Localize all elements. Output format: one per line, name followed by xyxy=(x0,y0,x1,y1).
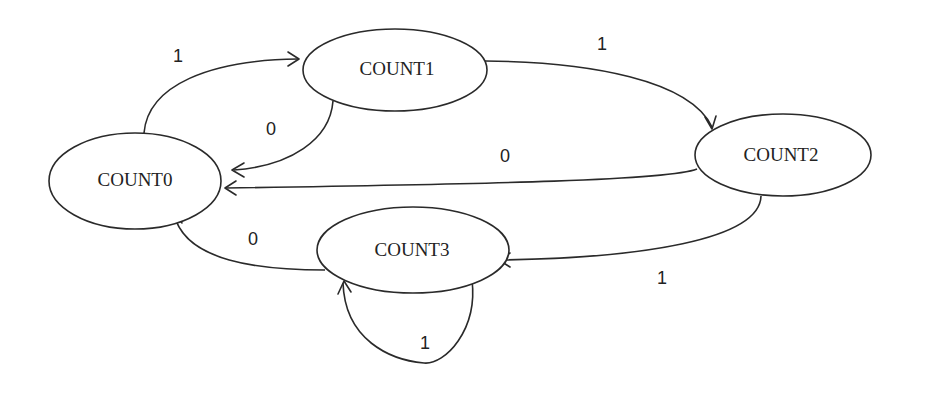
edge-count3-to-count0 xyxy=(168,213,325,270)
state-count1[interactable]: COUNT1 xyxy=(303,29,487,111)
edge-count2-to-count3 xyxy=(499,196,761,267)
edge-label: 1 xyxy=(173,46,183,66)
edge-label: 0 xyxy=(248,229,258,249)
state-count2[interactable]: COUNT2 xyxy=(695,114,871,196)
edge-label: 1 xyxy=(657,268,667,288)
edge-count1-to-count2 xyxy=(485,61,716,129)
state-label: COUNT0 xyxy=(98,169,173,190)
edge-label: 0 xyxy=(266,119,276,139)
edge-count1-to-count0 xyxy=(232,101,333,177)
state-label: COUNT2 xyxy=(744,144,819,165)
state-diagram: COUNT0 COUNT1 COUNT2 COUNT3 1 0 1 0 1 0 … xyxy=(0,0,930,398)
state-label: COUNT3 xyxy=(375,239,450,260)
state-count0[interactable]: COUNT0 xyxy=(49,133,221,229)
state-count3[interactable]: COUNT3 xyxy=(317,207,509,293)
state-label: COUNT1 xyxy=(360,58,435,79)
edge-label: 1 xyxy=(597,34,607,54)
edge-count2-to-count0 xyxy=(225,169,697,195)
edge-label: 0 xyxy=(500,146,510,166)
edge-label: 1 xyxy=(420,333,430,353)
